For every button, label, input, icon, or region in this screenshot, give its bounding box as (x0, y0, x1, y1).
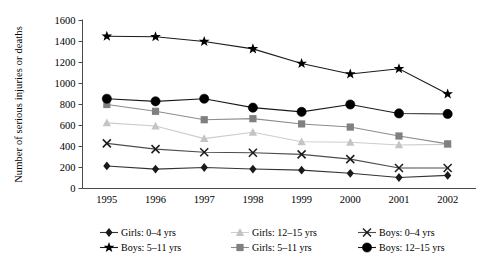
data-point-circle (248, 103, 257, 112)
circle-marker (362, 243, 371, 252)
star-marker (248, 43, 259, 53)
data-point-diamond (249, 165, 256, 174)
star-marker (104, 242, 115, 252)
legend-label: Girls: 12–15 yrs (252, 227, 317, 238)
circle-marker (200, 94, 209, 103)
data-point-circle (443, 109, 452, 118)
legend-item: Boys: 0–4 yrs (358, 227, 435, 238)
legend-item: Girls: 12–15 yrs (231, 227, 317, 238)
data-point-triangle (103, 118, 111, 126)
data-point-circle (200, 94, 209, 103)
series-diamond (103, 162, 451, 182)
data-point-circle (394, 109, 403, 118)
data-point-star (442, 88, 453, 98)
x-tick-label: 2000 (340, 194, 361, 205)
data-point-star (102, 31, 113, 41)
data-point-square (395, 132, 402, 139)
legend-item: Girls: 0–4 yrs (100, 227, 176, 238)
series-line (107, 36, 448, 94)
legend-item: Girls: 5–11 yrs (231, 242, 312, 253)
data-point-diamond (103, 162, 110, 171)
x-tick-label: 1999 (291, 194, 312, 205)
square-marker (201, 116, 208, 123)
line-chart: Number of serious injuries or deaths0200… (0, 0, 483, 270)
data-point-triangle (249, 128, 257, 136)
data-point-circle (362, 243, 371, 252)
y-tick-label: 1400 (55, 36, 76, 47)
legend: Girls: 0–4 yrsGirls: 12–15 yrsBoys: 5–11… (100, 227, 445, 253)
data-point-diamond (105, 228, 112, 237)
circle-marker (248, 103, 257, 112)
circle-marker (346, 100, 355, 109)
y-tick-label: 1000 (55, 78, 76, 89)
diamond-marker (201, 163, 208, 172)
circle-marker (151, 97, 160, 106)
square-marker (444, 140, 451, 147)
data-point-diamond (347, 169, 354, 178)
legend-label: Boys: 12–15 yrs (379, 242, 445, 253)
legend-label: Girls: 5–11 yrs (252, 242, 312, 253)
series-star (102, 31, 453, 99)
x-tick-label: 1995 (96, 194, 117, 205)
square-marker (298, 120, 305, 127)
y-tick-label: 1200 (55, 57, 76, 68)
data-point-star (296, 58, 307, 68)
data-point-circle (102, 94, 111, 103)
legend-item: Boys: 5–11 yrs (100, 242, 181, 253)
data-point-square (201, 116, 208, 123)
circle-marker (102, 94, 111, 103)
circle-marker (394, 109, 403, 118)
x-tick-label: 1996 (145, 194, 166, 205)
data-point-circle (297, 107, 306, 116)
diamond-marker (103, 162, 110, 171)
legend-label: Girls: 0–4 yrs (121, 227, 176, 238)
data-point-circle (151, 97, 160, 106)
x-tick-label: 1998 (242, 194, 263, 205)
star-marker (394, 63, 405, 73)
data-point-star (394, 63, 405, 73)
legend-label: Boys: 5–11 yrs (121, 242, 181, 253)
star-marker (102, 31, 113, 41)
chart-container: Number of serious injuries or deaths0200… (0, 0, 483, 270)
square-marker (395, 132, 402, 139)
y-axis-label: Number of serious injuries or deaths (13, 26, 24, 183)
data-point-diamond (298, 166, 305, 175)
diamond-marker (249, 165, 256, 174)
y-tick-label: 600 (60, 120, 76, 131)
data-point-square (347, 123, 354, 130)
x-tick-label: 2002 (437, 194, 458, 205)
data-point-square (444, 140, 451, 147)
diamond-marker (298, 166, 305, 175)
square-marker (152, 108, 159, 115)
data-point-square (236, 244, 243, 251)
triangle-marker (103, 118, 111, 126)
data-point-square (298, 120, 305, 127)
square-marker (347, 123, 354, 130)
square-marker (249, 115, 256, 122)
legend-label: Boys: 0–4 yrs (379, 227, 435, 238)
y-tick-label: 800 (60, 99, 76, 110)
diamond-marker (395, 173, 402, 182)
data-point-star (199, 36, 210, 46)
circle-marker (443, 109, 452, 118)
data-point-diamond (201, 163, 208, 172)
star-marker (345, 68, 356, 78)
data-point-star (248, 43, 259, 53)
axes: 0200400600800100012001400160019951996199… (55, 15, 477, 204)
star-marker (442, 88, 453, 98)
diamond-marker (444, 171, 451, 180)
square-marker (236, 244, 243, 251)
data-point-diamond (152, 165, 159, 174)
y-tick-label: 1600 (55, 15, 76, 26)
triangle-marker (249, 128, 257, 136)
circle-marker (297, 107, 306, 116)
y-tick-label: 0 (70, 183, 75, 194)
data-point-star (345, 68, 356, 78)
data-point-star (150, 31, 161, 41)
x-tick-label: 2001 (388, 194, 409, 205)
x-tick-label: 1997 (194, 194, 215, 205)
legend-item: Boys: 12–15 yrs (358, 242, 445, 253)
data-point-circle (346, 100, 355, 109)
diamond-marker (152, 165, 159, 174)
star-marker (296, 58, 307, 68)
